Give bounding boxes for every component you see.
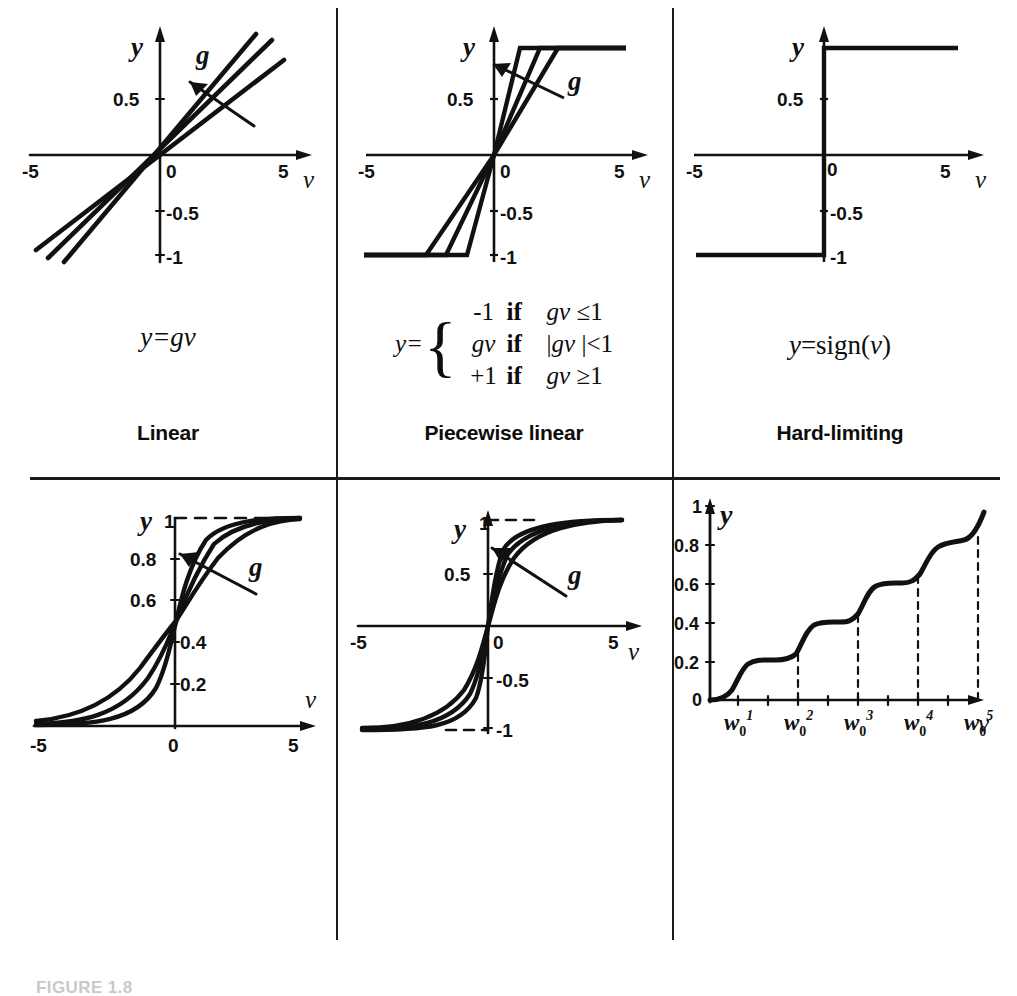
- x-tick-label-0: 0: [168, 735, 179, 756]
- y-axis-label: y: [717, 499, 733, 530]
- x-tick-label-5: 5: [278, 161, 289, 182]
- x-axis-arrowhead: [968, 695, 984, 705]
- x-tick-label-w04: w04: [904, 708, 933, 739]
- formula-hard-limiting: y=sign(v): [672, 330, 1008, 361]
- x-tick-label-w01: w01: [724, 708, 753, 739]
- figure-number-label: FIGURE 1.8: [36, 978, 133, 996]
- x-axis-arrowhead: [632, 150, 648, 160]
- x-tick-label-w03: w03: [844, 708, 873, 739]
- y-tick-label-0.2: 0.2: [674, 653, 699, 673]
- x-axis-label: v: [303, 166, 315, 193]
- y-axis-label: y: [460, 32, 476, 62]
- y-tick-label-0.5: 0.5: [113, 89, 140, 110]
- x-tick-label-5: 5: [940, 161, 951, 182]
- y-tick-label-0: 0: [692, 690, 702, 710]
- gain-label: g: [248, 552, 263, 582]
- plot-linear: y v g 0.5 -0.5 -1 -5 5 0: [0, 0, 336, 300]
- curve-bipolar-gain2: [362, 520, 622, 729]
- y-axis-arrowhead: [155, 26, 165, 42]
- x-axis-label: v: [639, 166, 651, 193]
- plot-sigmoidal-multimode: y v 1 0.8 0.6 0.4 0.2 0 w01 w02 w03 w04: [672, 478, 1008, 778]
- y-tick-label-0.4: 0.4: [674, 614, 699, 634]
- y-tick-label-0.2: 0.2: [180, 674, 206, 695]
- y-tick-label-neg1: -1: [166, 247, 183, 268]
- panel-sigmoidal-unipolar: y v g 1 0.8 0.6 0.4 0.2 -5 0 5 y=: [0, 478, 336, 956]
- caption-hard-limiting: Hard-limiting: [672, 420, 1008, 446]
- panel-hard-limiting: y v 0.5 -0.5 -1 -5 5 0 y=sign(v) Hard-li…: [672, 0, 1008, 478]
- y-tick-label-0.4: 0.4: [180, 632, 207, 653]
- y-tick-label-1: 1: [479, 513, 490, 534]
- origin-label: 0: [827, 159, 838, 180]
- plot-piecewise-linear: y v g 0.5 -0.5 -1 -5 5 0: [336, 0, 672, 300]
- y-tick-label-1: 1: [164, 511, 175, 532]
- y-tick-label-0.5: 0.5: [447, 89, 474, 110]
- x-tick-label-5: 5: [608, 632, 619, 653]
- x-axis-label: v: [975, 166, 987, 193]
- curve-bipolar-gain1: [362, 520, 622, 728]
- y-tick-label-0.5: 0.5: [444, 564, 471, 585]
- y-tick-label-1: 1: [692, 497, 702, 517]
- y-tick-label-neg1: -1: [496, 720, 513, 741]
- panel-piecewise-linear: y v g 0.5 -0.5 -1 -5 5 0 y= {: [336, 0, 672, 478]
- x-axis-label: v: [628, 638, 640, 665]
- curve-unipolar-gain1: [36, 519, 300, 721]
- y-tick-label-0.8: 0.8: [674, 536, 699, 556]
- plot-hard-limiting: y v 0.5 -0.5 -1 -5 5 0: [672, 0, 1008, 300]
- curve-multimode: [710, 512, 984, 700]
- y-axis-label: y: [789, 32, 805, 62]
- gain-label: g: [195, 40, 210, 70]
- x-axis-arrowhead: [626, 621, 642, 631]
- case-row-2: gv if |gv |<1: [461, 328, 613, 360]
- y-tick-label-neg0.5: -0.5: [500, 203, 533, 224]
- x-tick-label-neg5: -5: [686, 161, 703, 182]
- x-tick-label-5: 5: [614, 161, 625, 182]
- y-tick-label-0.6: 0.6: [674, 575, 699, 595]
- origin-label: 0: [493, 632, 504, 653]
- curve-unipolar-gain2: [36, 518, 300, 724]
- case-row-3: +1 if gv ≥1: [461, 360, 613, 392]
- panel-linear: y v g 0.5 -0.5 -1 -5 5 0 y=gv Linear: [0, 0, 336, 478]
- x-tick-label-neg5: -5: [350, 632, 367, 653]
- x-tick-label-w02: w02: [784, 708, 813, 739]
- panel-sigmoidal-bipolar: y v g 1 0.5 -0.5 -1 -5 0 5 y=tanh(gv) Si…: [336, 478, 672, 956]
- plot-sigmoidal-bipolar: y v g 1 0.5 -0.5 -1 -5 0 5: [336, 478, 672, 778]
- y-axis-label: y: [128, 32, 144, 62]
- x-tick-label-neg5: -5: [30, 735, 47, 756]
- y-tick-label-neg1: -1: [830, 247, 847, 268]
- x-tick-label-neg5: -5: [22, 161, 39, 182]
- gain-label: g: [567, 560, 582, 590]
- y-axis-label: y: [451, 514, 467, 544]
- curve-unipolar-gain3: [36, 518, 300, 725]
- origin-label: 0: [166, 161, 177, 182]
- formula-linear: y=gv: [0, 322, 336, 353]
- x-axis-arrowhead: [296, 150, 312, 160]
- gain-label: g: [567, 66, 582, 96]
- curve-sign-step: [696, 48, 958, 255]
- y-tick-label-neg1: -1: [500, 247, 517, 268]
- y-axis-arrowhead: [489, 26, 499, 42]
- y-tick-label-neg0.5: -0.5: [166, 203, 199, 224]
- y-axis-arrowhead: [819, 26, 829, 42]
- y-axis-label: y: [137, 506, 153, 536]
- case-row-1: -1 if gv ≤1: [461, 296, 613, 328]
- x-axis-arrowhead: [968, 150, 984, 160]
- plot-sigmoidal-unipolar: y v g 1 0.8 0.6 0.4 0.2 -5 0 5: [0, 478, 336, 778]
- caption-linear: Linear: [0, 420, 336, 446]
- caption-piecewise-linear: Piecewise linear: [336, 420, 672, 446]
- formula-lhs: y=: [395, 330, 423, 358]
- y-tick-label-neg0.5: -0.5: [830, 203, 863, 224]
- y-tick-label-0.6: 0.6: [130, 590, 156, 611]
- x-tick-label-5: 5: [288, 735, 299, 756]
- y-tick-label-0.5: 0.5: [777, 89, 804, 110]
- y-tick-label-0.8: 0.8: [130, 549, 156, 570]
- panel-sigmoidal-multimode-unipolar: y v 1 0.8 0.6 0.4 0.2 0 w01 w02 w03 w04: [672, 478, 1008, 956]
- origin-label: 0: [500, 161, 511, 182]
- activation-function-figure: y v g 0.5 -0.5 -1 -5 5 0 y=gv Linear: [0, 0, 1017, 996]
- formula-piecewise-linear: y= { -1 if gv ≤1 gv if |gv |<1: [336, 296, 672, 392]
- x-axis-arrowhead: [300, 721, 316, 731]
- y-tick-label-neg0.5: -0.5: [496, 670, 529, 691]
- x-axis-label: v: [305, 686, 317, 713]
- x-tick-label-neg5: -5: [358, 161, 375, 182]
